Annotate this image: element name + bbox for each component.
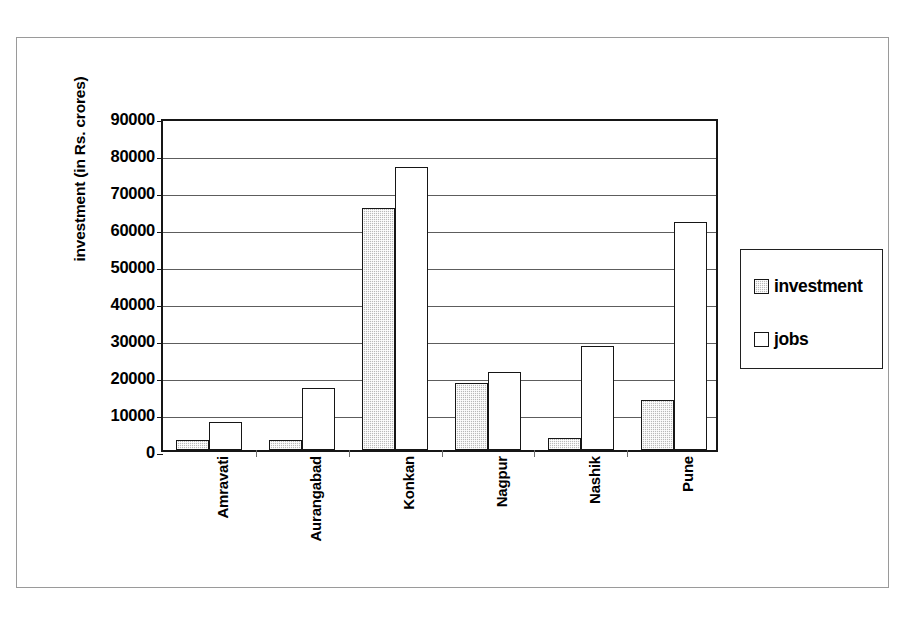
y-axis-tick-labels: 0100002000030000400005000060000700008000… (86, 119, 161, 452)
bar-jobs-nagpur (488, 372, 521, 450)
y-tick-mark (157, 454, 163, 455)
y-tick-label: 30000 (111, 333, 155, 350)
jobs-swatch-icon (754, 332, 769, 347)
bar-jobs-amravati (209, 422, 242, 450)
legend-label-jobs: jobs (774, 329, 808, 350)
bar-jobs-pune (674, 222, 707, 450)
legend-entry-investment: investment (754, 276, 862, 297)
chart-legend: investment jobs (740, 249, 883, 369)
x-axis-label-nagpur: Nagpur (493, 456, 510, 507)
x-axis-category-labels: AmravatiAurangabadKonkanNagpurNashikPune (161, 456, 718, 576)
y-tick-label: 50000 (111, 259, 155, 276)
legend-entry-jobs: jobs (754, 329, 808, 350)
legend-label-investment: investment (774, 276, 862, 297)
x-axis-label-konkan: Konkan (400, 456, 417, 510)
bar-jobs-konkan (395, 167, 428, 450)
x-axis-label-nashik: Nashik (586, 456, 603, 504)
x-axis-label-pune: Pune (679, 456, 696, 492)
investment-swatch-icon (754, 279, 769, 294)
bar-investment-aurangabad (269, 440, 302, 450)
y-tick-label: 80000 (111, 148, 155, 165)
y-tick-label: 0 (146, 444, 155, 461)
y-tick-label: 90000 (111, 111, 155, 128)
bar-investment-konkan (362, 208, 395, 450)
bar-chart: investment (in Rs. crores) 0100002000030… (0, 0, 912, 625)
y-tick-label: 60000 (111, 222, 155, 239)
y-tick-label: 40000 (111, 296, 155, 313)
y-tick-label: 10000 (111, 407, 155, 424)
y-tick-label: 20000 (111, 370, 155, 387)
x-axis-label-amravati: Amravati (214, 456, 231, 519)
bar-investment-amravati (176, 440, 209, 450)
bar-investment-nashik (548, 438, 581, 450)
bar-investment-nagpur (455, 383, 488, 450)
bars-layer (163, 121, 716, 450)
bar-jobs-nashik (581, 346, 614, 450)
plot-area (161, 119, 718, 452)
x-axis-label-aurangabad: Aurangabad (307, 456, 324, 542)
bar-investment-pune (641, 400, 674, 450)
y-tick-label: 70000 (111, 185, 155, 202)
bar-jobs-aurangabad (302, 388, 335, 450)
